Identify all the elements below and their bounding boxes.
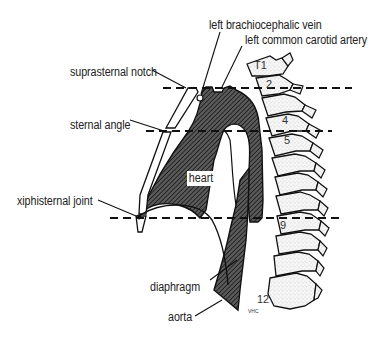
vertebra-label-t9: 9 <box>280 220 286 231</box>
brachiocephalic-vein-marker <box>197 95 203 101</box>
diaphragm-curve <box>140 205 228 285</box>
vertebra-label-t4: 4 <box>282 115 288 126</box>
vertebra-label-t12: 12 <box>257 294 269 305</box>
label-diaphragm: diaphragm <box>150 281 200 294</box>
vertebra-label-t5: 5 <box>284 135 290 146</box>
heart-and-aorta <box>140 86 263 310</box>
label-sternal-angle: sternal angle <box>70 119 130 132</box>
vertebra-label-t2: 2 <box>266 79 272 90</box>
vertebra-label-t1: T1 <box>254 60 267 71</box>
artist-signature: VHC <box>248 309 259 314</box>
label-left-brachiocephalic-vein: left brachiocephalic vein <box>209 19 322 32</box>
label-suprasternal-notch: suprasternal notch <box>70 66 157 79</box>
label-xiphisternal-joint: xiphisternal joint <box>17 195 93 208</box>
thoracic-landmarks-diagram: left brachiocephalic vein left common ca… <box>0 0 377 338</box>
label-heart: heart <box>187 171 215 186</box>
label-left-common-carotid-artery: left common carotid artery <box>245 34 367 47</box>
label-aorta: aorta <box>168 311 192 324</box>
